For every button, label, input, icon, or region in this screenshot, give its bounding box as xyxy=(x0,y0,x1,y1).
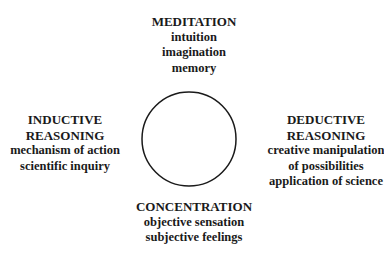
node-title: INDUCTIVE xyxy=(10,112,120,128)
node-item: memory xyxy=(152,61,237,77)
node-deductive-reasoning: DEDUCTIVE REASONING creative manipulatio… xyxy=(268,112,384,190)
node-item: application of science xyxy=(268,174,384,190)
node-title: CONCENTRATION xyxy=(136,199,252,215)
node-title: DEDUCTIVE xyxy=(268,112,384,128)
center-circle xyxy=(142,92,236,186)
node-concentration: CONCENTRATION objective sensation subjec… xyxy=(136,199,252,246)
node-item: subjective feelings xyxy=(136,230,252,246)
node-meditation: MEDITATION intuition imagination memory xyxy=(152,14,237,76)
node-item: of possibilities xyxy=(268,159,384,175)
node-item: intuition xyxy=(152,30,237,46)
node-item: creative manipulation xyxy=(268,143,384,159)
node-title: MEDITATION xyxy=(152,14,237,30)
node-item: objective sensation xyxy=(136,215,252,231)
node-item: imagination xyxy=(152,45,237,61)
node-item: mechanism of action xyxy=(10,143,120,159)
node-title: REASONING xyxy=(10,128,120,144)
node-item: scientific inquiry xyxy=(10,159,120,175)
node-title: REASONING xyxy=(268,128,384,144)
node-inductive-reasoning: INDUCTIVE REASONING mechanism of action … xyxy=(10,112,120,174)
